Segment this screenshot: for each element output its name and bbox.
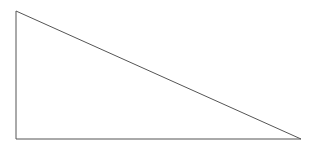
triangle-hypotenuse [16, 11, 301, 139]
triangle-canvas [0, 0, 322, 149]
